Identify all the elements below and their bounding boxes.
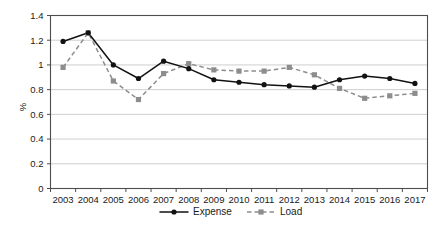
data-point-expense [136,76,141,81]
x-tick-label: 2013 [304,194,325,205]
y-tick-label: 0.8 [30,84,43,95]
y-tick-label: 0.2 [30,158,43,169]
data-point-expense [161,59,166,64]
x-tick-label: 2016 [379,194,400,205]
data-point-expense [262,82,267,87]
y-tick-label: 0.4 [30,133,43,144]
data-point-load [60,65,65,70]
data-point-expense [111,62,116,67]
data-point-load [412,91,417,96]
data-point-load [236,69,241,74]
legend-marker-load [258,209,263,214]
x-tick-label: 2006 [128,194,149,205]
legend-label-expense: Expense [193,206,232,217]
x-tick-label: 2009 [203,194,224,205]
x-tick-label: 2003 [52,194,73,205]
data-point-load [337,86,342,91]
x-tick-label: 2007 [153,194,174,205]
data-point-load [161,71,166,76]
x-tick-label: 2014 [329,194,350,205]
x-tick-label: 2010 [228,194,249,205]
y-tick-label: 0.6 [30,109,43,120]
chart-canvas: 00.20.40.60.811.21.4 2003200420052006200… [0,0,446,227]
legend-marker-expense [171,209,176,214]
data-point-load [211,67,216,72]
data-point-load [387,93,392,98]
data-point-load [312,72,317,77]
data-point-expense [337,77,342,82]
data-point-load [262,69,267,74]
data-point-expense [236,80,241,85]
x-tick-label: 2004 [78,194,99,205]
data-point-load [287,65,292,70]
x-tick-label: 2017 [404,194,425,205]
data-point-expense [60,39,65,44]
data-point-load [186,61,191,66]
data-point-expense [287,83,292,88]
y-tick-label: 1.2 [30,35,43,46]
data-point-expense [86,30,91,35]
x-tick-label: 2012 [279,194,300,205]
data-point-expense [312,85,317,90]
y-tick-label: 1 [38,59,43,70]
x-tick-label: 2015 [354,194,375,205]
y-tick-label: 1.4 [30,10,43,21]
data-point-expense [186,66,191,71]
legend-label-load: Load [280,206,302,217]
line-chart: 00.20.40.60.811.21.4 2003200420052006200… [0,0,446,227]
data-point-load [136,97,141,102]
data-point-expense [211,77,216,82]
y-tick-label: 0 [38,183,43,194]
data-point-load [362,96,367,101]
x-tick-label: 2005 [103,194,124,205]
data-point-expense [412,81,417,86]
x-axis-tick-labels: 2003200420052006200720082009201020112012… [52,194,425,205]
x-tick-label: 2011 [254,194,274,205]
x-tick-label: 2008 [178,194,199,205]
data-point-expense [362,73,367,78]
data-point-expense [387,76,392,81]
data-point-load [111,78,116,83]
y-axis-title: % [17,102,28,111]
